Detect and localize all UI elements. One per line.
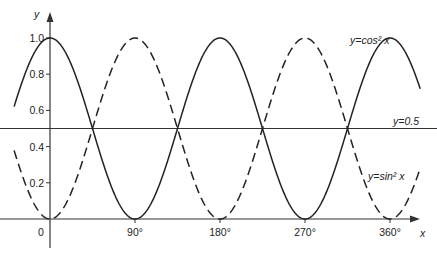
label-y-half: y=0.5 (392, 115, 419, 127)
label-sin-squared: y=sin² x (367, 170, 405, 182)
x-axis-arrow-icon (410, 216, 420, 223)
x-tick-label: 270° (294, 226, 316, 238)
y-tick-label: 0.4 (29, 141, 44, 153)
y-axis-arrow-icon (47, 12, 54, 22)
x-ticks: 090°180°270°360° (38, 219, 401, 238)
chart: 0.20.40.60.81.0 090°180°270°360° y x y=c… (0, 0, 437, 261)
x-axis-label: x (419, 227, 426, 239)
axes (0, 18, 412, 248)
y-tick-label: 0.6 (29, 104, 44, 116)
x-tick-label: 90° (127, 226, 143, 238)
x-tick-label: 180° (209, 226, 231, 238)
y-tick-label: 0.8 (29, 68, 44, 80)
y-axis-label: y (33, 8, 40, 20)
x-tick-label: 360° (379, 226, 401, 238)
label-cos-squared: y=cos² x (349, 34, 390, 46)
x-tick-label: 0 (38, 226, 44, 238)
y-tick-label: 0.2 (29, 177, 44, 189)
